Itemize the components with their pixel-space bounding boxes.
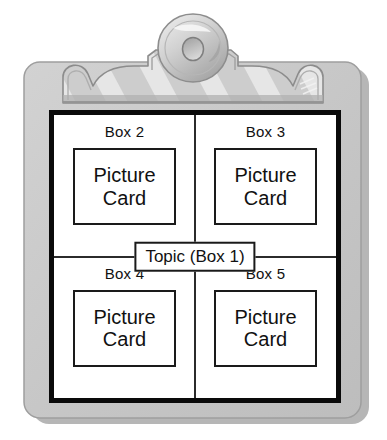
picture-card-box-3: Picture Card xyxy=(214,148,317,225)
picture-card-line-1: Picture xyxy=(93,164,155,186)
diagram-paper: Box 2 Picture Card Box 3 Picture Card Bo… xyxy=(49,110,341,403)
picture-card-box-2: Picture Card xyxy=(73,148,176,225)
picture-card-line-2: Card xyxy=(103,187,146,209)
box-3-label: Box 3 xyxy=(246,124,285,139)
picture-card-line-1: Picture xyxy=(234,164,296,186)
quadrant-box-3: Box 3 Picture Card xyxy=(195,115,336,257)
picture-card-line-1: Picture xyxy=(234,306,296,328)
picture-card-line-2: Card xyxy=(244,187,287,209)
quadrant-box-5: Box 5 Picture Card xyxy=(195,257,336,399)
picture-card-box-5: Picture Card xyxy=(214,290,317,367)
box-2-label: Box 2 xyxy=(105,124,144,139)
clip-knob xyxy=(158,14,228,82)
picture-card-line-2: Card xyxy=(244,328,287,350)
diagram-grid: Box 2 Picture Card Box 3 Picture Card Bo… xyxy=(54,115,336,398)
picture-card-box-4: Picture Card xyxy=(73,290,176,367)
picture-card-line-1: Picture xyxy=(93,306,155,328)
quadrant-box-2: Box 2 Picture Card xyxy=(54,115,195,257)
picture-card-line-2: Card xyxy=(103,328,146,350)
topic-center-box: Topic (Box 1) xyxy=(134,241,255,272)
quadrant-box-4: Box 4 Picture Card xyxy=(54,257,195,399)
clipboard-illustration: Box 2 Picture Card Box 3 Picture Card Bo… xyxy=(0,0,387,440)
topic-center-label: Topic (Box 1) xyxy=(145,246,244,266)
